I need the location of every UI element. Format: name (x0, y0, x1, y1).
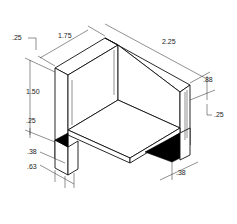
ext-line (88, 26, 105, 36)
dim-label-leg-inner: .38 (27, 148, 37, 155)
dim-label-leg-outer: .63 (27, 163, 37, 170)
dim-label-thickness-right: .25 (214, 111, 224, 118)
dim-label-top-offset: .25 (12, 34, 22, 41)
ext-line (190, 90, 215, 100)
dim-label-height-left: 1.50 (26, 88, 40, 95)
dim-label-thickness-left: .25 (26, 117, 36, 124)
dim-label-depth: 2.25 (162, 38, 176, 45)
dim-label-leg-right: .38 (176, 169, 186, 176)
drawing-canvas: .25 1.75 2.25 1.50 .88 .25 .25 .38 .63 .… (0, 0, 237, 224)
ext-line (25, 130, 55, 142)
dim-label-height-right: .88 (203, 76, 213, 83)
dim-label-width-front: 1.75 (58, 32, 72, 39)
ext-line (38, 56, 55, 66)
left-leg-side (68, 141, 78, 175)
ext-line (25, 58, 55, 72)
